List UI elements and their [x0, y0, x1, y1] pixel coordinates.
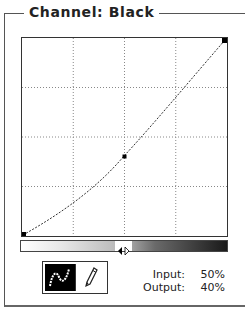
input-value: 50% [189, 268, 225, 281]
pencil-icon [76, 264, 105, 291]
swap-arrows-icon [115, 246, 132, 256]
curve-canvas[interactable] [22, 38, 227, 236]
output-label: Output: [130, 281, 189, 294]
input-output-readout: Input: 50% Output: 40% [130, 268, 225, 294]
curve-tool-button[interactable] [45, 264, 75, 291]
gradient-swap-button[interactable] [115, 240, 132, 252]
curve-icon [45, 264, 74, 291]
input-label: Input: [130, 268, 189, 281]
curve-tool-group [42, 261, 108, 294]
control-point-midtones[interactable] [123, 155, 127, 159]
control-point-highlights[interactable] [222, 38, 227, 43]
control-point-shadows[interactable] [22, 232, 26, 236]
output-value: 40% [189, 281, 225, 294]
channel-title: Channel: Black [24, 3, 159, 21]
grid-lines [22, 38, 227, 236]
pencil-tool-button[interactable] [75, 264, 106, 291]
curve-graph[interactable] [21, 37, 228, 237]
